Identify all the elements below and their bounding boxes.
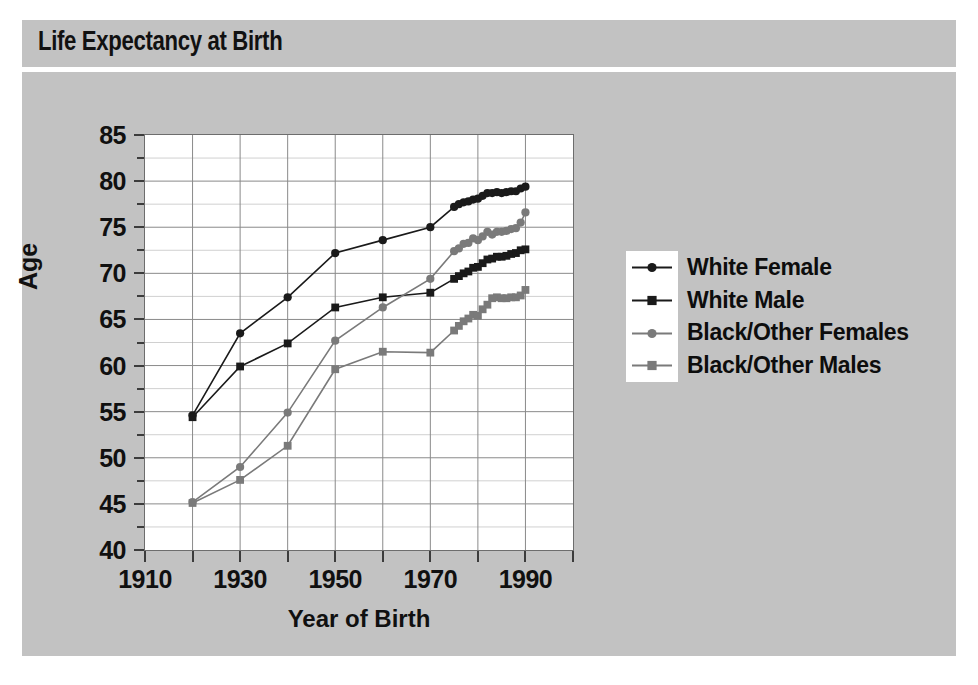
axis-tick — [134, 272, 144, 274]
y-tick-label: 80 — [66, 167, 126, 196]
data-point — [379, 293, 387, 301]
legend-label: White Male — [687, 287, 804, 314]
data-point — [331, 337, 339, 345]
data-point — [426, 223, 434, 231]
axis-tick — [137, 295, 144, 297]
legend-item[interactable]: White Female — [626, 251, 956, 284]
data-point — [189, 413, 197, 421]
legend-label: Black/Other Males — [687, 352, 881, 379]
axis-tick — [134, 503, 144, 505]
legend-marker — [647, 328, 656, 337]
y-tick-label: 55 — [66, 398, 126, 427]
legend-swatch-circle-icon — [626, 251, 678, 284]
legend-item[interactable]: Black/Other Females — [626, 317, 956, 350]
axis-tick — [137, 434, 144, 436]
data-point — [517, 219, 525, 227]
axis-tick — [477, 551, 479, 562]
axis-tick — [134, 180, 144, 182]
data-point — [521, 208, 529, 216]
legend-label: Black/Other Females — [687, 319, 909, 346]
axis-tick — [137, 480, 144, 482]
data-point — [379, 348, 387, 356]
legend-item[interactable]: White Male — [626, 284, 956, 317]
legend: White FemaleWhite MaleBlack/Other Female… — [626, 251, 956, 382]
data-point — [426, 349, 434, 357]
legend-item[interactable]: Black/Other Males — [626, 349, 956, 382]
data-point — [284, 408, 292, 416]
axis-tick — [134, 134, 144, 136]
data-point — [379, 303, 387, 311]
axis-tick — [524, 551, 526, 562]
figure-root: Life Expectancy at Birth Age 40455055606… — [0, 0, 978, 685]
legend-marker — [647, 263, 656, 272]
data-point — [236, 363, 244, 371]
axis-tick — [429, 551, 431, 562]
data-point — [284, 442, 292, 450]
y-tick-label: 85 — [66, 121, 126, 150]
y-axis-title: Age — [14, 243, 43, 290]
data-point — [236, 329, 244, 337]
x-tick-label: 1950 — [290, 565, 380, 594]
y-tick-label: 60 — [66, 352, 126, 381]
legend-marker — [647, 361, 656, 370]
axis-tick — [134, 365, 144, 367]
axis-tick — [287, 551, 289, 562]
y-tick-label: 50 — [66, 444, 126, 473]
axis-tick — [134, 318, 144, 320]
axis-tick — [134, 549, 144, 551]
y-tick-label: 70 — [66, 259, 126, 288]
x-axis-title: Year of Birth — [144, 605, 574, 633]
axis-tick — [572, 551, 574, 562]
plot-area — [144, 134, 574, 551]
data-point — [521, 183, 529, 191]
axis-tick — [134, 226, 144, 228]
x-tick-label: 1930 — [195, 565, 285, 594]
data-point — [189, 499, 197, 507]
data-point — [522, 245, 530, 253]
axis-tick — [137, 203, 144, 205]
data-point — [284, 340, 292, 348]
data-point — [236, 476, 244, 484]
series-line — [193, 187, 526, 416]
data-point — [426, 275, 434, 283]
axis-tick — [137, 342, 144, 344]
axis-tick — [137, 157, 144, 159]
data-point — [331, 249, 339, 257]
data-point — [379, 236, 387, 244]
axis-tick — [239, 551, 241, 562]
axis-tick — [137, 388, 144, 390]
x-tick-label: 1990 — [480, 565, 570, 594]
legend-swatch-circle-icon — [626, 317, 678, 350]
y-tick-label: 40 — [66, 536, 126, 565]
x-tick-label: 1970 — [385, 565, 475, 594]
series-line — [193, 290, 526, 503]
data-point — [522, 286, 530, 294]
plot-svg — [145, 135, 573, 550]
axis-tick — [137, 526, 144, 528]
y-tick-label: 75 — [66, 213, 126, 242]
axis-tick — [134, 411, 144, 413]
x-tick-label: 1910 — [100, 565, 190, 594]
legend-marker — [647, 296, 656, 305]
data-point — [284, 293, 292, 301]
axis-tick — [144, 551, 146, 562]
axis-tick — [382, 551, 384, 562]
legend-swatch-square-icon — [626, 349, 678, 382]
axis-tick — [137, 249, 144, 251]
data-point — [331, 365, 339, 373]
data-point — [331, 304, 339, 312]
axis-tick — [192, 551, 194, 562]
series-line — [193, 212, 526, 502]
y-tick-label: 65 — [66, 305, 126, 334]
legend-label: White Female — [687, 254, 832, 281]
axis-tick — [334, 551, 336, 562]
data-point — [426, 289, 434, 297]
figure-caption — [58, 668, 938, 680]
axis-tick — [134, 457, 144, 459]
legend-swatch-square-icon — [626, 284, 678, 317]
data-point — [236, 463, 244, 471]
page-title: Life Expectancy at Birth — [38, 26, 282, 57]
y-tick-label: 45 — [66, 490, 126, 519]
